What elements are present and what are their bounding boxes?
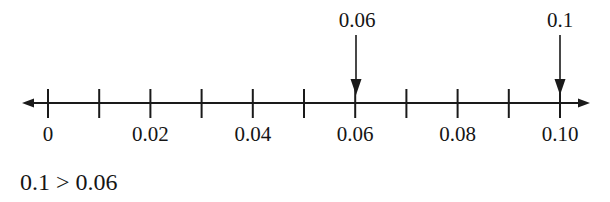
pointer-head-0-1 bbox=[555, 79, 566, 95]
tick-label-0-08: 0.08 bbox=[439, 124, 476, 145]
axis-line-group bbox=[22, 99, 590, 108]
comparison-statement: 0.1 > 0.06 bbox=[20, 170, 118, 194]
pointer-arrow-0-1 bbox=[555, 35, 566, 95]
pointer-arrow-0-06 bbox=[351, 35, 362, 95]
tick-label-0-06: 0.06 bbox=[337, 124, 374, 145]
axis-left-arrowhead bbox=[22, 99, 34, 108]
pointer-head-0-06 bbox=[351, 79, 362, 95]
pointer-label-0-06: 0.06 bbox=[339, 10, 376, 31]
axis-right-arrowhead bbox=[578, 99, 590, 108]
number-line-figure: 0.06 0.1 0 0.02 0.04 0.06 0.08 0.10 0.1 … bbox=[0, 0, 610, 202]
tick-label-0-10: 0.10 bbox=[542, 124, 579, 145]
tick-label-0-04: 0.04 bbox=[234, 124, 271, 145]
tick-label-0-02: 0.02 bbox=[132, 124, 169, 145]
tick-label-0: 0 bbox=[43, 124, 54, 145]
pointer-label-0-1: 0.1 bbox=[547, 10, 573, 31]
